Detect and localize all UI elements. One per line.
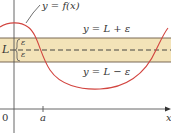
x-axis-arrow-icon [165, 107, 171, 112]
epsilon-lower-label: ε [21, 51, 25, 59]
a-label: a [40, 113, 46, 123]
curve-label: y = f(x) [42, 1, 80, 11]
upper-band-label: y = L + ε [83, 24, 130, 34]
origin-label: 0 [2, 113, 8, 123]
x-axis-label: x [166, 113, 171, 123]
curve-label-leader [26, 5, 40, 23]
epsilon-upper-label: ε [21, 39, 25, 47]
epsilon-band-diagram: y = f(x) y = L + ε y = L − ε L ε ε 0 a x [0, 0, 171, 133]
lower-band-label: y = L − ε [83, 67, 130, 77]
limit-label: L [2, 44, 9, 55]
